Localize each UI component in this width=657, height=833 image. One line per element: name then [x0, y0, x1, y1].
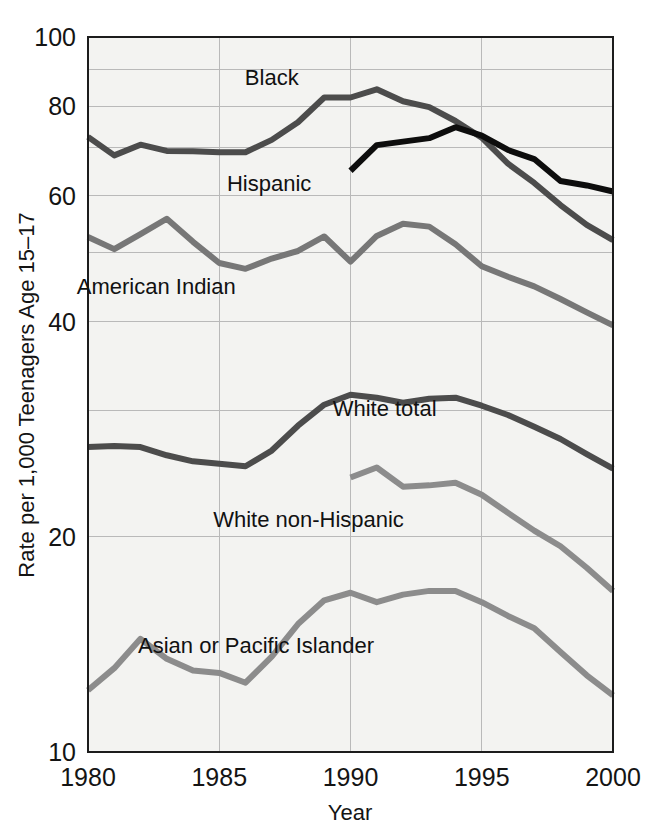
series-label-white-total: White total	[333, 396, 437, 421]
x-axis-title: Year	[328, 800, 372, 825]
line-chart: 1008060402010 19801985199019952000 Black…	[0, 0, 657, 833]
y-tick-label: 20	[48, 523, 76, 551]
series-label-white-non-hispanic: White non-Hispanic	[213, 507, 404, 532]
x-tick-label: 1980	[60, 763, 116, 791]
series-label-black: Black	[245, 65, 300, 90]
series-label-hispanic: Hispanic	[227, 171, 311, 196]
x-tick-label: 1985	[191, 763, 247, 791]
x-axis-tick-labels: 19801985199019952000	[60, 763, 641, 791]
y-tick-label: 10	[48, 738, 76, 766]
y-tick-label: 60	[48, 182, 76, 210]
series-label-american-indian: American Indian	[77, 274, 236, 299]
y-tick-label: 100	[34, 23, 76, 51]
x-tick-label: 2000	[585, 763, 641, 791]
y-axis-tick-labels: 1008060402010	[34, 23, 76, 766]
y-axis-title: Rate per 1,000 Teenagers Age 15–17	[14, 212, 39, 577]
x-tick-label: 1995	[454, 763, 510, 791]
series-label-asian-or-pacific-islander: Asian or Pacific Islander	[138, 633, 374, 658]
y-tick-label: 80	[48, 92, 76, 120]
x-tick-label: 1990	[323, 763, 379, 791]
y-tick-label: 40	[48, 308, 76, 336]
chart-container: 1008060402010 19801985199019952000 Black…	[0, 0, 657, 833]
